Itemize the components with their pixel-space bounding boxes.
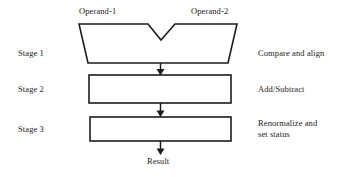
stage-3-function-label-line1: Renormalize and xyxy=(258,118,342,129)
arrowhead-stage3-result xyxy=(157,149,165,156)
stage-3-shape xyxy=(90,117,231,141)
operand-2-label: Operand-2 xyxy=(191,6,228,16)
result-label: Result xyxy=(147,156,169,166)
stage-1-label: Stage 1 xyxy=(18,48,44,58)
stage-3-label: Stage 3 xyxy=(18,124,44,134)
stage-3-function-label-line2: set status xyxy=(258,129,342,140)
stage-1-function-label: Compare and align xyxy=(258,48,324,59)
stage-2-label: Stage 2 xyxy=(18,84,44,94)
stage-1-shape xyxy=(79,24,237,63)
arrowhead-stage2-stage3 xyxy=(157,111,165,118)
operand-1-label: Operand-1 xyxy=(79,6,116,16)
stage-2-function-label: Add/Subtract xyxy=(258,84,305,95)
stage-3-function-label: Renormalize and set status xyxy=(258,118,342,139)
stage-2-shape xyxy=(89,75,231,103)
diagram-canvas: Operand-1 Operand-2 Stage 1 Stage 2 Stag… xyxy=(0,0,343,177)
